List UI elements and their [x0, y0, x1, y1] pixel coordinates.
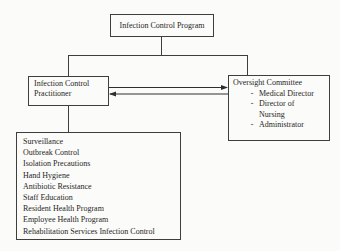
member-label: Director of Nursing [259, 99, 321, 120]
program-item: Surveillance [23, 136, 176, 147]
member-label: Administrator [259, 120, 321, 131]
oversight-member: - Administrator [245, 120, 327, 131]
member-dash: - [245, 99, 259, 120]
program-item: Outbreak Control [23, 147, 176, 158]
member-dash: - [245, 89, 259, 100]
member-label: Medical Director [259, 89, 321, 100]
programs-list-box: Surveillance Outbreak Control Isolation … [16, 132, 181, 240]
program-root-label: Infection Control Program [120, 21, 205, 30]
practitioner-box: Infection Control Practitioner [28, 76, 109, 106]
member-dash: - [245, 120, 259, 131]
oversight-member-list: - Medical Director - Director of Nursing… [233, 89, 327, 131]
program-item: Staff Education [23, 192, 176, 203]
oversight-member: - Medical Director [245, 89, 327, 100]
oversight-box: Oversight Committee - Medical Director -… [228, 75, 330, 141]
infection-control-org-chart: Infection Control Program Infection Cont… [0, 0, 340, 251]
program-item: Rehabilitation Services Infection Contro… [23, 226, 176, 237]
program-item: Employee Health Program [23, 214, 176, 225]
practitioner-label: Infection Control Practitioner [34, 79, 89, 98]
oversight-title: Oversight Committee [233, 78, 327, 89]
program-item: Isolation Precautions [23, 158, 176, 169]
program-item: Antibiotic Resistance [23, 181, 176, 192]
oversight-member: - Director of Nursing [245, 99, 327, 120]
program-item: Hand Hygiene [23, 170, 176, 181]
program-item: Resident Health Program [23, 203, 176, 214]
program-root-box: Infection Control Program [110, 14, 214, 37]
